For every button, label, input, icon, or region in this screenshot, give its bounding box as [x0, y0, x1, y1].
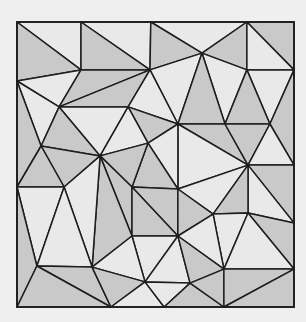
triangles-group	[17, 22, 294, 307]
triangulation-diagram	[0, 0, 306, 322]
